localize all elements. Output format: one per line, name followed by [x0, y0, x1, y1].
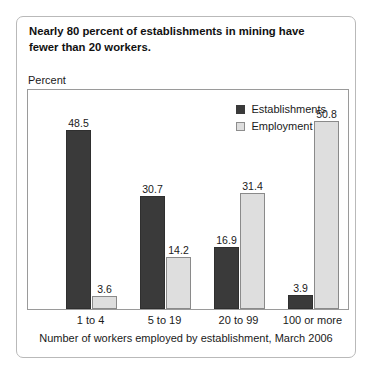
bar: 16.9	[214, 247, 239, 309]
bar-group: 16.931.4	[214, 90, 265, 309]
bar-value-label: 16.9	[216, 234, 236, 246]
bar-value-label: 50.8	[316, 108, 336, 120]
bar-group: 48.53.6	[66, 90, 117, 309]
bar: 30.7	[140, 196, 165, 309]
bar: 48.5	[66, 130, 91, 309]
bar-group: 30.714.2	[140, 90, 191, 309]
chart-card: Nearly 80 percent of establishments in m…	[16, 16, 356, 358]
bar: 3.6	[92, 296, 117, 309]
category-label: 100 or more	[283, 314, 342, 326]
category-labels: 1 to 45 to 1920 to 99100 or more	[27, 314, 349, 330]
headline: Nearly 80 percent of establishments in m…	[29, 24, 345, 55]
category-label: 5 to 19	[148, 314, 182, 326]
bar-groups: 48.53.630.714.216.931.43.950.8	[28, 90, 348, 309]
bar: 3.9	[288, 295, 313, 309]
plot-area: Establishments Employment 48.53.630.714.…	[27, 89, 349, 310]
category-label: 20 to 99	[219, 314, 259, 326]
scan-edge-artifact	[18, 0, 318, 4]
bar-value-label: 14.2	[168, 244, 188, 256]
bar-value-label: 31.4	[242, 180, 262, 192]
bar: 31.4	[240, 193, 265, 309]
headline-line-1: Nearly 80 percent of establishments in m…	[29, 24, 345, 40]
bar: 14.2	[166, 257, 191, 309]
x-axis-caption: Number of workers employed by establishm…	[17, 332, 355, 344]
bar-value-label: 30.7	[142, 183, 162, 195]
category-label: 1 to 4	[77, 314, 105, 326]
y-axis-title: Percent	[28, 74, 66, 86]
bar-value-label: 3.6	[97, 283, 112, 295]
bar-value-label: 3.9	[293, 282, 308, 294]
bar: 50.8	[314, 121, 339, 309]
bar-group: 3.950.8	[288, 90, 339, 309]
headline-line-2: fewer than 20 workers.	[29, 40, 345, 56]
bar-value-label: 48.5	[68, 117, 88, 129]
